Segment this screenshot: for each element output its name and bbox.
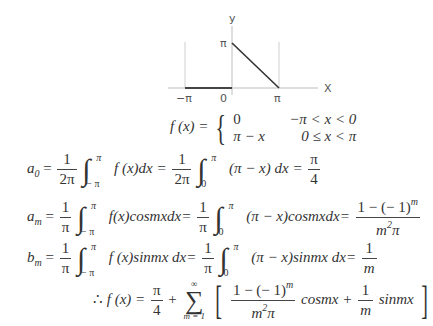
a0-integrand2: (π − x) dx = [229, 160, 303, 176]
x-tick-pi: π [274, 92, 281, 105]
series-constant: π4 [151, 283, 163, 318]
sin-coefficient: 1m [358, 283, 373, 318]
right-bracket: ] [421, 281, 428, 321]
am-integrand2: (π − x)cosmxdx= [246, 208, 350, 224]
function-segment-linear [232, 43, 279, 88]
case-row-2: π − x 0 ≤ x < π [233, 128, 356, 145]
sin-term: sinmx [379, 291, 414, 307]
integral-icon: ∫π0 [197, 155, 213, 185]
case2-value: π − x [233, 129, 289, 144]
bm-integrand1: f (x)sinmx dx= [109, 249, 197, 265]
x-tick-neg-pi: −π [176, 92, 192, 105]
cases: 0 −π < x < 0 π − x 0 ≤ x < π [233, 111, 356, 145]
bm-integrand2: (π − x)sinmx dx= [251, 249, 356, 265]
integral-icon: ∫π− π [77, 244, 93, 274]
left-bracket: [ [215, 281, 222, 321]
function-graph: y X π −π 0 π [0, 0, 433, 110]
am-equation: am = 1π ∫π− π f(x)cosmxdx= 1π ∫π0 (π − x… [27, 197, 422, 238]
case1-condition: −π < x < 0 [289, 112, 356, 127]
cos-coefficient: 1 − (− 1)mm2π [231, 280, 295, 321]
bm-frac1: 1π [60, 241, 72, 276]
am-frac1: 1π [60, 200, 72, 235]
am-frac2: 1π [197, 200, 209, 235]
bm-frac2: 1π [202, 241, 214, 276]
integral-icon: ∫π0 [219, 244, 235, 274]
therefore-symbol: ∴ [93, 291, 103, 307]
am-lhs: am [27, 208, 42, 224]
a0-equation: a0 = 12π ∫π− π f (x)dx = 12π ∫π0 (π − x)… [27, 152, 322, 187]
bm-lhs: bm [27, 249, 42, 265]
series-lhs: f (x) = [107, 291, 145, 307]
definition-lhs: f (x) = [170, 118, 208, 134]
x-tick-zero: 0 [220, 92, 227, 105]
a0-frac1: 12π [57, 152, 76, 187]
fourier-series: ∴ f (x) = π4 + ∞∑m = 1 [ 1 − (− 1)mm2π c… [93, 280, 431, 321]
case2-condition: 0 ≤ x < π [289, 129, 356, 144]
am-result: 1 − (− 1)mm2π [356, 197, 420, 238]
x-axis-label: X [324, 82, 332, 95]
integral-icon: ∫π− π [82, 155, 98, 185]
cos-term: cosmx + [301, 291, 352, 307]
summation-icon: ∞∑m = 1 [183, 280, 205, 321]
bm-equation: bm = 1π ∫π− π f (x)sinmx dx= 1π ∫π0 (π −… [27, 241, 379, 276]
y-tick-pi: π [220, 37, 227, 50]
case-row-1: 0 −π < x < 0 [233, 111, 356, 128]
y-axis-label: y [229, 12, 236, 25]
a0-result: π4 [308, 152, 320, 187]
integral-icon: ∫π− π [77, 203, 93, 233]
a0-integrand1: f (x)dx = [114, 160, 167, 176]
left-brace: { [216, 110, 226, 146]
a0-frac2: 12π [172, 152, 191, 187]
case1-value: 0 [233, 112, 289, 127]
piecewise-definition: f (x) = { 0 −π < x < 0 π − x 0 ≤ x < π [170, 110, 356, 146]
a0-lhs: a0 [27, 160, 40, 176]
integral-icon: ∫π0 [214, 203, 230, 233]
bm-result: 1m [362, 241, 377, 276]
plus-sign: + [168, 291, 176, 307]
am-integrand1: f(x)cosmxdx= [109, 208, 192, 224]
